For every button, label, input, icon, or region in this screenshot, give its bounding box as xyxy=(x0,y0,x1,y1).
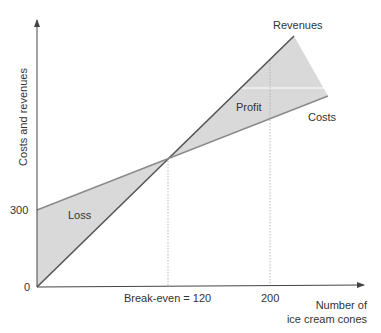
y-tick-300: 300 xyxy=(10,204,28,216)
y-axis-label: Costs and revenues xyxy=(17,68,29,166)
break-even-chart: Costs and revenues Revenues Costs Profit… xyxy=(0,0,381,333)
x-axis xyxy=(37,285,364,287)
profit-label: Profit xyxy=(236,101,262,113)
x-axis-label-line2: ice cream cones xyxy=(287,313,368,325)
x-tick-200: 200 xyxy=(261,292,279,304)
revenues-line xyxy=(37,36,294,287)
loss-label: Loss xyxy=(68,209,92,221)
x-axis-label-line1: Number of xyxy=(316,299,368,311)
costs-label: Costs xyxy=(308,111,337,123)
profit-region xyxy=(168,36,328,158)
costs-line xyxy=(37,96,328,210)
x-tick-breakeven: Break-even = 120 xyxy=(124,292,211,304)
y-tick-0: 0 xyxy=(24,281,30,293)
revenues-label: Revenues xyxy=(273,19,323,31)
